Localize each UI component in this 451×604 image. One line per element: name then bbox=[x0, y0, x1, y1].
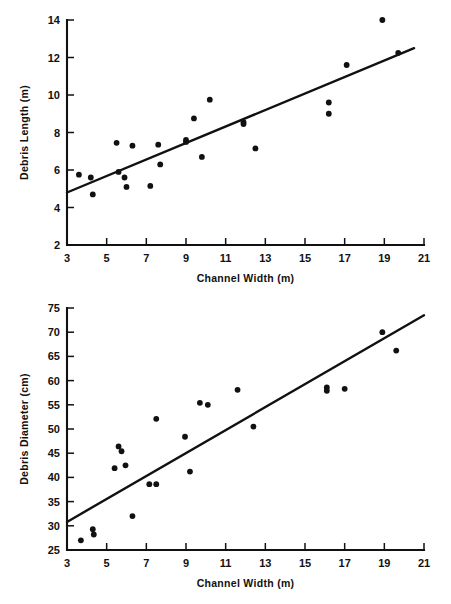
data-point bbox=[324, 388, 330, 394]
x-tick-label: 17 bbox=[339, 252, 351, 264]
data-point bbox=[88, 175, 94, 181]
y-axis-title: Debris Diameter (cm) bbox=[18, 373, 30, 485]
data-point bbox=[155, 142, 161, 148]
x-tick-label: 13 bbox=[259, 557, 271, 569]
y-axis-title: Debris Length (m) bbox=[18, 85, 30, 180]
y-tick-label: 12 bbox=[48, 52, 60, 64]
data-point bbox=[112, 465, 118, 471]
x-tick-label: 17 bbox=[339, 557, 351, 569]
y-tick-label: 45 bbox=[48, 447, 60, 459]
data-point bbox=[241, 121, 247, 127]
x-tick-label: 11 bbox=[220, 557, 232, 569]
data-point bbox=[114, 140, 120, 146]
data-point bbox=[124, 184, 130, 190]
data-point bbox=[205, 402, 211, 408]
data-point bbox=[191, 116, 197, 122]
y-tick-label: 65 bbox=[48, 350, 60, 362]
y-tick-label: 35 bbox=[48, 496, 60, 508]
x-tick-label: 5 bbox=[104, 252, 110, 264]
y-axis-ticks: 2468101214 bbox=[48, 14, 74, 251]
x-axis-title: Channel Width (m) bbox=[197, 577, 295, 589]
data-point bbox=[344, 62, 350, 68]
x-axis-ticks: 3579111315171921 bbox=[64, 543, 430, 569]
y-tick-label: 25 bbox=[48, 544, 60, 556]
data-point bbox=[197, 400, 203, 406]
x-tick-label: 9 bbox=[183, 557, 189, 569]
x-tick-label: 9 bbox=[183, 252, 189, 264]
regression-line bbox=[67, 315, 424, 522]
x-tick-label: 21 bbox=[418, 252, 430, 264]
y-tick-label: 2 bbox=[54, 239, 60, 251]
x-tick-label: 5 bbox=[104, 557, 110, 569]
x-tick-label: 11 bbox=[220, 252, 232, 264]
data-point bbox=[153, 416, 159, 422]
y-tick-label: 50 bbox=[48, 423, 60, 435]
data-point bbox=[91, 532, 97, 538]
data-point bbox=[147, 183, 153, 189]
y-tick-label: 14 bbox=[48, 14, 61, 26]
data-point bbox=[90, 526, 96, 532]
x-axis-ticks: 3579111315171921 bbox=[64, 238, 430, 264]
x-tick-label: 19 bbox=[378, 252, 390, 264]
y-tick-label: 10 bbox=[48, 89, 60, 101]
chart-panel-debris-length: 24681012143579111315171921Channel Width … bbox=[0, 0, 451, 300]
data-point bbox=[379, 17, 385, 23]
data-point bbox=[76, 172, 82, 178]
x-axis-title: Channel Width (m) bbox=[197, 272, 295, 284]
data-point bbox=[123, 462, 129, 468]
data-point bbox=[90, 191, 96, 197]
data-point bbox=[78, 537, 84, 543]
x-tick-label: 7 bbox=[143, 252, 149, 264]
y-tick-label: 40 bbox=[48, 471, 60, 483]
data-point bbox=[119, 448, 125, 454]
data-point bbox=[182, 434, 188, 440]
y-tick-label: 70 bbox=[48, 326, 60, 338]
x-tick-label: 15 bbox=[299, 252, 311, 264]
data-point bbox=[235, 387, 241, 393]
x-tick-label: 3 bbox=[64, 252, 70, 264]
data-point bbox=[393, 348, 399, 354]
x-tick-label: 7 bbox=[143, 557, 149, 569]
data-point bbox=[326, 111, 332, 117]
y-tick-label: 60 bbox=[48, 375, 60, 387]
data-point bbox=[116, 169, 122, 175]
y-tick-label: 8 bbox=[54, 127, 60, 139]
data-point bbox=[130, 513, 136, 519]
data-point bbox=[116, 444, 122, 450]
x-tick-label: 13 bbox=[259, 252, 271, 264]
data-points bbox=[76, 17, 401, 197]
data-point bbox=[187, 469, 193, 475]
chart-panel-debris-diameter: 25303540455055606570753579111315171921Ch… bbox=[0, 300, 451, 604]
x-tick-label: 21 bbox=[418, 557, 430, 569]
data-point bbox=[379, 329, 385, 335]
figure-container: 24681012143579111315171921Channel Width … bbox=[0, 0, 451, 604]
y-axis-ticks: 2530354045505560657075 bbox=[48, 302, 74, 556]
data-point bbox=[122, 175, 128, 181]
y-tick-label: 75 bbox=[48, 302, 60, 314]
data-point bbox=[342, 386, 348, 392]
y-tick-label: 55 bbox=[48, 399, 60, 411]
axis-spine bbox=[67, 20, 424, 245]
debris-diameter-scatter-plot: 25303540455055606570753579111315171921Ch… bbox=[0, 300, 451, 604]
data-points bbox=[78, 329, 399, 543]
x-tick-label: 19 bbox=[378, 557, 390, 569]
data-point bbox=[130, 143, 136, 149]
y-tick-label: 6 bbox=[54, 164, 60, 176]
data-point bbox=[207, 97, 213, 103]
data-point bbox=[395, 50, 401, 56]
x-tick-label: 15 bbox=[299, 557, 311, 569]
data-point bbox=[146, 481, 152, 487]
plot-area: 25303540455055606570753579111315171921Ch… bbox=[18, 302, 430, 589]
plot-area: 24681012143579111315171921Channel Width … bbox=[18, 14, 430, 284]
data-point bbox=[251, 424, 257, 430]
y-tick-label: 30 bbox=[48, 520, 60, 532]
data-point bbox=[183, 139, 189, 145]
data-point bbox=[153, 481, 159, 487]
data-point bbox=[253, 146, 259, 152]
x-tick-label: 3 bbox=[64, 557, 70, 569]
data-point bbox=[199, 154, 205, 160]
data-point bbox=[157, 161, 163, 167]
debris-length-scatter-plot: 24681012143579111315171921Channel Width … bbox=[0, 0, 451, 300]
axis-spine bbox=[67, 308, 424, 550]
data-point bbox=[326, 100, 332, 106]
